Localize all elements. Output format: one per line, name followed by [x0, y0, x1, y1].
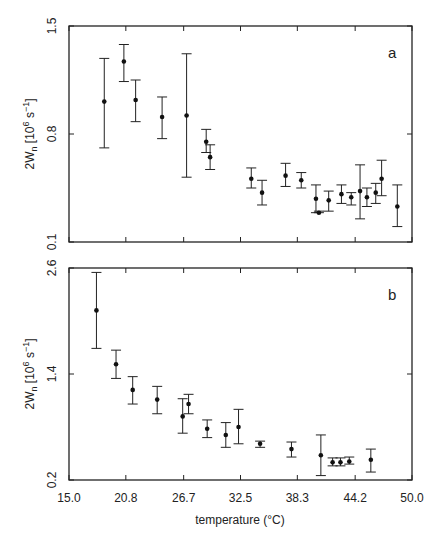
data-point — [99, 58, 109, 147]
data-point — [157, 97, 167, 139]
data-point — [296, 173, 306, 188]
data-point — [392, 185, 402, 227]
data-point — [202, 420, 212, 438]
x-axis-label: temperature (°C) — [195, 513, 285, 527]
data-point — [286, 442, 296, 457]
data-point — [311, 185, 321, 213]
data-point — [128, 377, 138, 404]
data-point — [131, 80, 141, 122]
panel-letter: b — [388, 286, 396, 303]
y-tick-label: 0.8 — [45, 125, 59, 142]
panel-b: 15.020.826.732.538.344.250.00.21.42.62Wn… — [21, 259, 424, 505]
data-point — [152, 386, 162, 413]
y-tick-label: 1.4 — [45, 365, 59, 382]
data-point — [335, 458, 345, 466]
figure: 0.10.81.52Wn [106 s−1]a 15.020.826.732.5… — [0, 0, 444, 544]
y-axis-label: 2Wn [106 s−1] — [21, 99, 39, 170]
data-point — [377, 160, 387, 195]
x-tick-label: 38.3 — [286, 491, 310, 505]
x-tick-label: 32.5 — [229, 491, 253, 505]
data-point — [316, 435, 326, 476]
data-point — [281, 163, 291, 186]
y-axis-label: 2Wn [106 s−1] — [21, 339, 39, 410]
data-point — [362, 188, 372, 207]
data-point — [119, 45, 129, 82]
y-tick-label: 0.1 — [45, 233, 59, 250]
data-point — [355, 165, 365, 219]
data-point — [314, 210, 324, 215]
y-tick-label: 2.6 — [45, 259, 59, 276]
plot-frame — [69, 268, 412, 480]
data-point — [255, 441, 265, 447]
data-point — [178, 399, 188, 433]
data-point — [324, 191, 334, 211]
x-tick-label: 20.8 — [114, 491, 138, 505]
data-point — [91, 272, 101, 348]
data-point — [246, 168, 256, 188]
data-point — [366, 449, 376, 472]
x-tick-label: 50.0 — [400, 491, 424, 505]
x-tick-label: 26.7 — [172, 491, 196, 505]
panel-letter: a — [388, 44, 397, 61]
x-tick-label: 44.2 — [343, 491, 367, 505]
data-point — [221, 423, 231, 448]
data-point — [111, 350, 121, 378]
data-point — [328, 458, 338, 466]
y-tick-label: 0.2 — [45, 471, 59, 488]
x-tick-label: 15.0 — [57, 491, 81, 505]
data-point — [257, 180, 267, 205]
data-point — [234, 409, 244, 443]
data-point — [344, 457, 354, 464]
data-point — [184, 394, 194, 413]
panel-a: 0.10.81.52Wn [106 s−1]a — [21, 17, 412, 250]
data-point — [371, 183, 381, 203]
data-point — [182, 54, 192, 177]
data-point — [346, 193, 356, 205]
y-tick-label: 1.5 — [45, 17, 59, 34]
data-point — [336, 185, 346, 204]
